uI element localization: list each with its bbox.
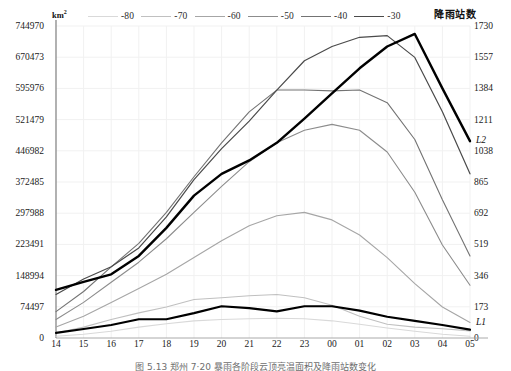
series-line-neg80 — [56, 318, 470, 336]
series-line-neg50 — [56, 124, 470, 319]
series-line-neg30 — [56, 36, 470, 295]
series-label-l1: L1 — [476, 317, 486, 327]
plot-area — [0, 0, 511, 371]
series-line-L1 — [56, 306, 470, 333]
figure-caption: 图 5.13 郑州 7·20 暴雨各阶段云顶亮温面积及降雨站数变化 — [0, 360, 511, 371]
chart-container: km2 降雨站数 -80-70-60-50-40-30 074497148994… — [0, 0, 511, 371]
series-line-neg40 — [56, 90, 470, 312]
series-line-L2 — [56, 34, 470, 290]
series-label-l2: L2 — [476, 135, 486, 145]
series-line-neg70 — [56, 294, 470, 333]
